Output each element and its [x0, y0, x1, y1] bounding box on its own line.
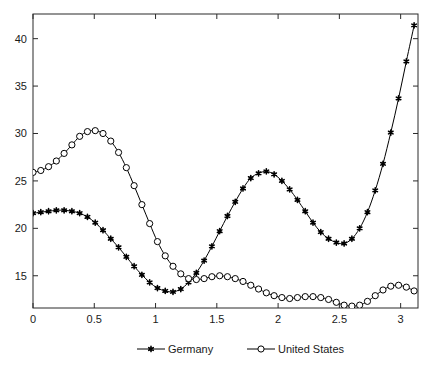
y-axis-tick-label: 35 — [0, 80, 27, 92]
data-point-marker — [116, 245, 121, 250]
data-point-marker — [217, 273, 223, 279]
data-point-marker — [295, 197, 300, 202]
data-point-marker — [45, 164, 51, 170]
data-point-marker — [131, 183, 137, 189]
legend-label-germany: Germany — [168, 343, 213, 355]
data-point-marker — [84, 129, 90, 135]
data-point-marker — [279, 294, 285, 300]
data-point-marker — [310, 294, 316, 300]
data-point-marker — [210, 244, 215, 249]
data-point-marker — [350, 236, 355, 241]
data-point-marker — [124, 254, 129, 259]
y-axis-tick-label: 40 — [0, 33, 27, 45]
data-point-marker — [396, 96, 401, 101]
x-axis-tick-label: 2 — [275, 313, 281, 325]
data-point-marker — [271, 293, 277, 299]
data-point-marker — [302, 294, 308, 300]
x-axis-tick-label: 3 — [398, 313, 404, 325]
data-point-marker — [154, 239, 160, 245]
data-point-marker — [333, 299, 339, 305]
data-point-marker — [372, 293, 378, 299]
data-point-marker — [53, 158, 59, 164]
data-point-marker — [258, 346, 264, 352]
data-point-marker — [319, 230, 324, 235]
data-point-marker — [381, 161, 386, 166]
data-point-marker — [256, 171, 261, 176]
data-point-marker — [38, 167, 44, 173]
data-point-marker — [139, 202, 145, 208]
data-point-marker — [115, 149, 121, 155]
data-point-marker — [209, 274, 215, 280]
data-point-marker — [255, 286, 261, 292]
data-point-marker — [178, 271, 184, 277]
data-point-marker — [388, 283, 394, 289]
legend-label-united-states: United States — [278, 343, 344, 355]
data-point-marker — [287, 295, 293, 301]
data-point-marker — [92, 128, 98, 134]
x-axis-tick-label: 1 — [152, 313, 158, 325]
data-point-marker — [163, 288, 168, 293]
data-point-marker — [77, 133, 83, 139]
data-point-marker — [100, 130, 106, 136]
y-axis-tick-label: 25 — [0, 175, 27, 187]
data-point-marker — [341, 302, 347, 308]
data-point-marker — [39, 210, 44, 215]
data-point-marker — [412, 23, 417, 28]
data-point-marker — [132, 264, 137, 269]
data-point-marker — [264, 169, 269, 174]
data-point-marker — [303, 209, 308, 214]
plot-background — [33, 14, 418, 308]
data-point-marker — [149, 346, 154, 351]
data-point-marker — [249, 175, 254, 180]
data-point-marker — [108, 138, 114, 144]
data-point-marker — [233, 199, 238, 204]
x-axis-tick-label: 1.5 — [209, 313, 224, 325]
data-point-marker — [357, 226, 362, 231]
data-point-marker — [30, 169, 36, 175]
data-point-marker — [280, 178, 285, 183]
data-point-marker — [364, 298, 370, 304]
data-point-marker — [225, 213, 230, 218]
data-point-marker — [334, 240, 339, 245]
data-point-marker — [357, 302, 363, 308]
data-point-marker — [155, 285, 160, 290]
data-point-marker — [193, 276, 199, 282]
data-point-marker — [46, 209, 51, 214]
x-axis-tick-label: 0 — [30, 313, 36, 325]
data-point-marker — [325, 296, 331, 302]
data-point-marker — [404, 59, 409, 64]
data-point-marker — [248, 282, 254, 288]
data-point-marker — [311, 220, 316, 225]
data-point-marker — [403, 284, 409, 290]
x-axis-tick-label: 2.5 — [332, 313, 347, 325]
data-point-marker — [389, 130, 394, 135]
y-axis-tick-label: 15 — [0, 270, 27, 282]
data-point-marker — [224, 274, 230, 280]
data-point-marker — [147, 220, 153, 226]
x-axis-tick-label: 0.5 — [87, 313, 102, 325]
chart-figure: 00.511.522.53152025303540 GermanyUnited … — [0, 0, 436, 373]
data-point-marker — [69, 142, 75, 148]
data-point-marker — [101, 228, 106, 233]
data-point-marker — [287, 187, 292, 192]
data-point-marker — [70, 209, 75, 214]
data-point-marker — [77, 211, 82, 216]
data-point-marker — [93, 220, 98, 225]
data-point-marker — [171, 289, 176, 294]
data-point-marker — [240, 278, 246, 284]
data-point-marker — [241, 186, 246, 191]
data-point-marker — [318, 294, 324, 300]
data-point-marker — [31, 211, 36, 216]
y-axis-tick-label: 20 — [0, 222, 27, 234]
data-point-marker — [201, 276, 207, 282]
data-point-marker — [326, 236, 331, 241]
data-point-marker — [147, 280, 152, 285]
data-point-marker — [217, 229, 222, 234]
data-point-marker — [170, 263, 176, 269]
data-point-marker — [109, 236, 114, 241]
data-point-marker — [263, 290, 269, 296]
data-point-marker — [54, 208, 59, 213]
data-point-marker — [294, 294, 300, 300]
data-point-marker — [395, 282, 401, 288]
data-point-marker — [162, 253, 168, 259]
